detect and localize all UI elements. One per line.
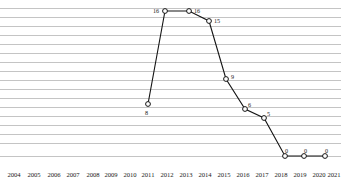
x-tick-label: 2007 bbox=[66, 171, 79, 178]
x-tick-label: 2008 bbox=[86, 171, 99, 178]
x-tick-label: 2004 bbox=[7, 171, 20, 178]
data-point-label: 0 bbox=[285, 148, 288, 154]
data-point-marker bbox=[302, 154, 307, 159]
data-point-marker bbox=[163, 9, 168, 14]
data-point-label: 6 bbox=[248, 102, 251, 108]
x-tick-label: 2020 bbox=[312, 171, 325, 178]
x-tick-label: 2011 bbox=[142, 171, 155, 178]
data-point-label: 16 bbox=[194, 8, 200, 14]
line-chart: 8161615965000 20042005200620072008200920… bbox=[0, 0, 341, 187]
series-markers bbox=[146, 9, 328, 159]
data-point-marker bbox=[224, 77, 229, 82]
x-axis: 2004200520062007200820092010201120122013… bbox=[0, 163, 341, 187]
data-point-label: 0 bbox=[325, 148, 328, 154]
x-tick-label: 2005 bbox=[27, 171, 40, 178]
data-point-label: 8 bbox=[145, 110, 148, 116]
x-tick-label: 2013 bbox=[179, 171, 192, 178]
x-tick-label: 2009 bbox=[104, 171, 117, 178]
x-tick-label: 2021 bbox=[327, 171, 340, 178]
data-point-label: 5 bbox=[267, 111, 270, 117]
data-point-marker bbox=[323, 154, 328, 159]
x-tick-label: 2010 bbox=[123, 171, 136, 178]
x-tick-label: 2017 bbox=[255, 171, 268, 178]
data-point-label: 9 bbox=[231, 74, 234, 80]
x-tick-label: 2016 bbox=[236, 171, 249, 178]
x-tick-label: 2012 bbox=[160, 171, 173, 178]
data-point-marker bbox=[262, 116, 267, 121]
x-tick-label: 2015 bbox=[217, 171, 230, 178]
data-point-label: 16 bbox=[153, 8, 159, 14]
data-point-marker bbox=[146, 102, 151, 107]
x-tick-label: 2019 bbox=[293, 171, 306, 178]
x-tick-label: 2014 bbox=[198, 171, 211, 178]
plot-area: 8161615965000 bbox=[0, 0, 341, 163]
series-line bbox=[148, 11, 325, 156]
data-point-label: 0 bbox=[304, 148, 307, 154]
data-point-marker bbox=[207, 19, 212, 24]
data-point-marker bbox=[283, 154, 288, 159]
data-point-marker bbox=[243, 107, 248, 112]
series-svg bbox=[0, 0, 341, 163]
data-point-label: 15 bbox=[214, 18, 220, 24]
x-tick-label: 2006 bbox=[47, 171, 60, 178]
data-point-marker bbox=[187, 9, 192, 14]
x-tick-label: 2018 bbox=[274, 171, 287, 178]
